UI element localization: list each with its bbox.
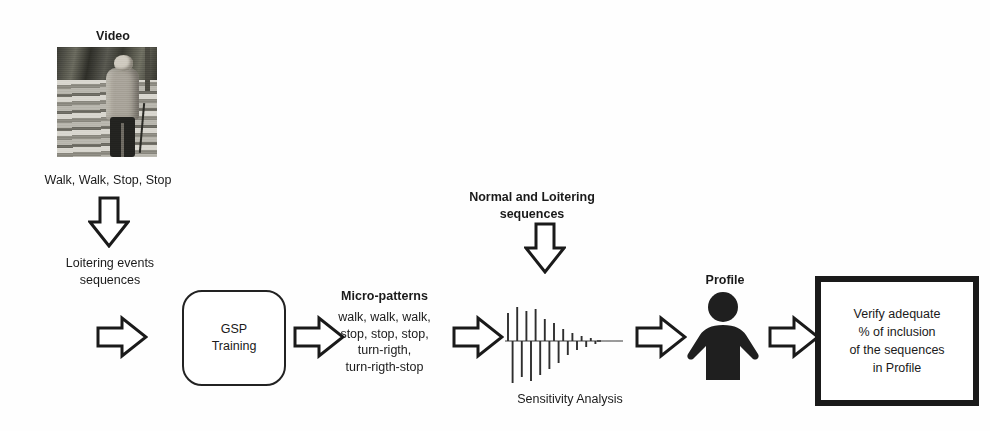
thumbnail-grain-overlay [57, 47, 157, 157]
micro-patterns-title: Micro-patterns [327, 288, 442, 305]
gsp-training-label: GSP Training [212, 321, 257, 355]
video-stage-title: Video [58, 28, 168, 45]
scan-artifact [620, 18, 624, 34]
gsp-training-box: GSP Training [182, 290, 286, 386]
arrow-right-icon [768, 315, 820, 359]
arrow-right-icon [635, 315, 687, 359]
scan-artifact [250, 60, 254, 76]
waveform-svg [505, 296, 630, 386]
verify-inclusion-label: Verify adequate % of inclusion of the se… [849, 305, 944, 378]
arrow-right-icon [452, 315, 504, 359]
profile-title: Profile [685, 272, 765, 289]
video-thumbnail [57, 47, 157, 157]
sensitivity-analysis-chart [505, 296, 630, 386]
waveform-stems [508, 307, 595, 383]
micro-patterns-list: walk, walk, walk, stop, stop, stop, turn… [322, 309, 447, 375]
person-icon [684, 290, 762, 382]
scan-artifact [300, 10, 304, 26]
video-stage-caption: Walk, Walk, Stop, Stop [18, 172, 198, 189]
figure-canvas: Video Walk, Walk, Stop, Stop Loitering e… [0, 0, 990, 431]
sensitivity-analysis-caption: Sensitivity Analysis [485, 391, 655, 408]
loitering-events-label: Loitering events sequences [30, 255, 190, 288]
normal-loitering-sequences-label: Normal and Loitering sequences [452, 189, 612, 222]
arrow-right-icon [96, 315, 148, 359]
arrow-down-icon [524, 222, 566, 274]
arrow-down-icon [88, 196, 130, 248]
verify-inclusion-box: Verify adequate % of inclusion of the se… [815, 276, 979, 406]
